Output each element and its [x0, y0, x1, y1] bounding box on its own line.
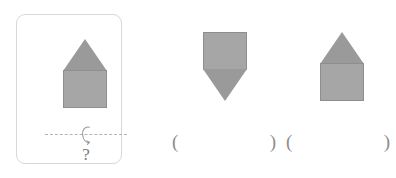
question-mark: ?	[33, 145, 139, 165]
answer-slot-b[interactable]: ( )	[286, 130, 390, 154]
option-b-shape	[320, 32, 364, 102]
puzzle-canvas: ? ( ) ( )	[0, 0, 396, 178]
vertical-flip-arrow-icon	[78, 124, 96, 146]
square-icon	[320, 63, 364, 101]
prompt-house-shape	[63, 39, 107, 109]
prompt-card: ?	[16, 14, 122, 164]
paren-open: (	[286, 130, 292, 154]
square-icon	[203, 32, 247, 70]
paren-close: )	[384, 130, 390, 154]
paren-close: )	[270, 130, 276, 154]
option-a-shape	[203, 32, 247, 102]
triangle-up-icon	[320, 32, 364, 64]
square-icon	[63, 70, 107, 108]
triangle-up-icon	[63, 39, 107, 71]
answer-slot-a[interactable]: ( )	[172, 130, 276, 154]
paren-open: (	[172, 130, 178, 154]
triangle-down-icon	[203, 69, 247, 101]
flip-axis-row	[45, 125, 127, 145]
